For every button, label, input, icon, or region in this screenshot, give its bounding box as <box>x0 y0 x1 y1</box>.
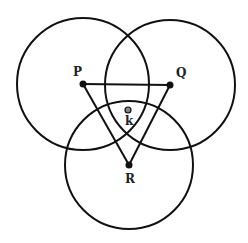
label-q: Q <box>176 66 186 80</box>
vertex-r <box>126 162 133 169</box>
geometry-diagram: P Q R k <box>0 0 248 243</box>
edge-pq <box>83 84 170 85</box>
point-k <box>125 107 131 113</box>
vertex-q <box>167 82 174 89</box>
label-p: P <box>73 65 82 79</box>
label-r: R <box>125 172 136 186</box>
vertex-p <box>80 81 87 88</box>
label-k: k <box>125 114 134 128</box>
